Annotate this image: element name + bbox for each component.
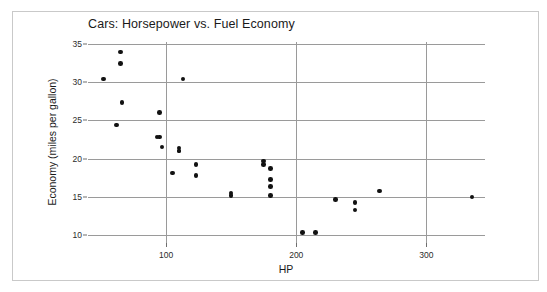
x-axis-label: HP	[279, 263, 294, 275]
data-point	[170, 171, 175, 176]
data-point	[268, 184, 273, 189]
data-point	[268, 177, 273, 182]
data-point	[268, 166, 273, 171]
data-point	[160, 145, 165, 150]
data-point	[118, 61, 123, 66]
data-point	[353, 200, 358, 205]
y-tick-mark	[83, 43, 87, 44]
data-point	[194, 173, 199, 178]
scatter-plot-figure: Cars: Horsepower vs. Fuel Economy Econom…	[0, 0, 547, 292]
y-tick-mark	[83, 81, 87, 82]
y-tick-label: 10	[73, 230, 82, 240]
data-point	[353, 208, 358, 213]
x-tick-label: 200	[289, 250, 303, 260]
y-tick-mark	[83, 196, 87, 197]
y-tick-mark	[83, 235, 87, 236]
data-point	[300, 230, 305, 235]
gridline-vertical	[166, 42, 167, 243]
x-tick-label: 100	[159, 250, 173, 260]
y-tick-label: 20	[73, 154, 82, 164]
y-tick-label: 30	[73, 77, 82, 87]
data-point	[313, 230, 318, 235]
plot-area: 101520253035 100200300	[88, 42, 485, 243]
data-point	[157, 110, 162, 115]
data-point	[101, 77, 106, 82]
data-point	[181, 77, 186, 82]
data-point	[157, 135, 162, 140]
x-tick-mark	[296, 243, 297, 247]
x-tick-mark	[426, 243, 427, 247]
data-point	[470, 195, 475, 200]
data-point	[177, 149, 182, 154]
data-point	[268, 193, 273, 198]
data-point	[194, 162, 199, 167]
y-axis-label: Economy (miles per gallon)	[46, 78, 58, 205]
x-tick-mark	[166, 243, 167, 247]
chart-title: Cars: Horsepower vs. Fuel Economy	[88, 17, 388, 31]
data-point	[114, 123, 119, 128]
data-point	[377, 189, 382, 194]
y-tick-mark	[83, 120, 87, 121]
data-point	[333, 197, 338, 202]
gridline-vertical	[296, 42, 297, 243]
y-tick-mark	[83, 158, 87, 159]
y-tick-label: 35	[73, 39, 82, 49]
y-tick-label: 25	[73, 115, 82, 125]
y-tick-label: 15	[73, 192, 82, 202]
data-point	[120, 100, 125, 105]
data-point	[118, 50, 123, 55]
data-point	[261, 162, 266, 167]
gridline-vertical	[426, 42, 427, 243]
x-tick-label: 300	[419, 250, 433, 260]
